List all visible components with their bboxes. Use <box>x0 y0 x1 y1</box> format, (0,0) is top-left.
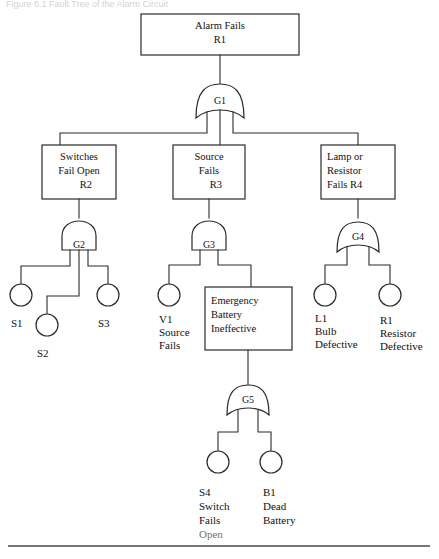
event-box-r2-line-3: R2 <box>80 179 92 190</box>
gate-g2: G2 <box>62 221 96 250</box>
basic-event-v1: V1 Source Fails <box>158 284 190 351</box>
basic-event-l1-line-3: Defective <box>315 338 358 350</box>
top-event-line-2: R1 <box>214 34 226 45</box>
figure-caption: Figure 6.1 Fault Tree of the Alarm Circu… <box>6 0 169 9</box>
gate-g2-label: G2 <box>73 239 85 250</box>
basic-event-v1-line-2: Source <box>159 326 190 338</box>
event-box-r3: Source Fails R3 <box>173 145 245 199</box>
basic-event-s3-label: S3 <box>98 317 110 329</box>
top-event-line-1: Alarm Fails <box>195 20 245 31</box>
basic-event-r1-line-2: Resistor <box>380 327 416 339</box>
basic-event-s3: S3 <box>97 284 119 329</box>
basic-event-v1-line-3: Fails <box>159 339 180 351</box>
wire-g3-to-v1 <box>169 250 200 284</box>
wire-g5-to-s4 <box>218 410 238 451</box>
basic-event-b1-line-1: B1 <box>263 486 276 498</box>
event-box-r4: Lamp or Resistor Fails R4 <box>321 145 395 199</box>
basic-event-l1-line-1: L1 <box>315 312 327 324</box>
event-box-r2-line-2: Fail Open <box>58 165 100 176</box>
basic-event-r1-line-3: Defective <box>380 340 423 352</box>
wire-g3-to-eb <box>218 250 251 287</box>
basic-event-s1-label: S1 <box>11 317 23 329</box>
basic-event-b1-line-2: Dead <box>263 500 287 512</box>
gate-g1-label: G1 <box>214 95 226 106</box>
top-event-box: Alarm Fails R1 <box>141 14 299 55</box>
wire-g1-to-r2 <box>60 112 207 145</box>
event-box-eb-line-1: Emergency <box>211 295 259 306</box>
basic-event-l1-line-2: Bulb <box>315 325 337 337</box>
basic-event-r1-line-1: R1 <box>380 314 393 326</box>
event-box-r2: Switches Fail Open R2 <box>42 145 116 199</box>
basic-event-s4: S4 Switch Fails Open <box>199 451 230 540</box>
gate-g5: G5 <box>227 385 269 415</box>
wire-g2-to-s1 <box>21 250 70 284</box>
basic-event-r1-resistor: R1 Resistor Defective <box>379 284 423 352</box>
gate-g4-label: G4 <box>352 231 364 242</box>
wire-g5-to-b1 <box>258 410 271 451</box>
wire-g4-to-l1 <box>325 247 347 284</box>
basic-event-s2-label: S2 <box>37 347 49 359</box>
event-box-emergency-battery: Emergency Battery Ineffective <box>205 287 292 350</box>
wire-g2-to-s3 <box>88 250 108 284</box>
wire-g1-to-r4 <box>233 112 358 145</box>
wire-g2-to-s2 <box>47 250 79 314</box>
basic-event-s4-line-4: Open <box>199 528 223 540</box>
event-box-r4-line-3: Fails R4 <box>327 179 363 190</box>
basic-event-b1-line-3: Battery <box>263 514 296 526</box>
event-box-r3-line-3: R3 <box>210 179 222 190</box>
basic-event-s4-line-3: Fails <box>199 514 220 526</box>
basic-event-v1-line-1: V1 <box>159 313 172 325</box>
event-box-r4-line-2: Resistor <box>327 165 362 176</box>
event-box-r3-line-2: Fails <box>199 165 219 176</box>
figure-canvas: Figure 6.1 Fault Tree of the Alarm Circu… <box>0 0 439 559</box>
gate-g3-label: G3 <box>203 239 215 250</box>
fault-tree-diagram: Figure 6.1 Fault Tree of the Alarm Circu… <box>0 0 439 559</box>
event-box-eb-line-2: Battery <box>211 309 243 320</box>
basic-event-s2: S2 <box>36 314 58 359</box>
event-box-eb-line-3: Ineffective <box>211 323 257 334</box>
event-box-r3-line-1: Source <box>194 151 223 162</box>
basic-event-b1: B1 Dead Battery <box>260 451 296 526</box>
basic-event-s4-line-1: S4 <box>199 486 211 498</box>
basic-event-s1: S1 <box>10 284 32 329</box>
gate-g4: G4 <box>337 222 379 252</box>
basic-event-s4-line-2: Switch <box>199 500 230 512</box>
event-box-r2-line-1: Switches <box>60 151 98 162</box>
gate-g5-label: G5 <box>242 394 254 405</box>
gate-g3: G3 <box>192 221 226 250</box>
basic-event-l1: L1 Bulb Defective <box>314 284 358 350</box>
event-box-r4-line-1: Lamp or <box>327 151 363 162</box>
